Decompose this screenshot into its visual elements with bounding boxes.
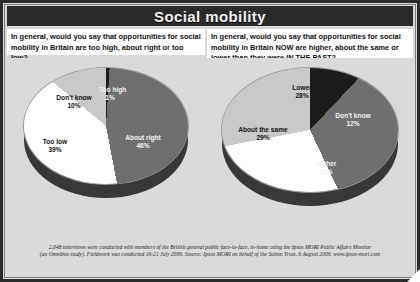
pie-right-face bbox=[222, 68, 398, 192]
title-bar: Social mobility bbox=[7, 6, 413, 26]
pie-chart-left: Too high 1% About right 46% Too low 39% … bbox=[7, 58, 205, 240]
poster-root: Social mobility In general, would you sa… bbox=[0, 0, 420, 282]
pie-chart-right: Don't know 12% Higher 31% About the same… bbox=[207, 58, 413, 240]
page-title: Social mobility bbox=[154, 8, 266, 25]
pie-left-face bbox=[24, 68, 188, 184]
footnote-line-2: (an Omnibus study). Fieldwork was conduc… bbox=[8, 251, 412, 258]
corner-fold bbox=[407, 269, 420, 282]
question-text-left: In general, would you say that opportuni… bbox=[7, 29, 205, 55]
footnote: 2,048 interviews were conducted with mem… bbox=[8, 244, 412, 259]
pie-left-wrap: Too high 1% About right 46% Too low 39% … bbox=[24, 68, 188, 192]
footnote-line-1: 2,048 interviews were conducted with mem… bbox=[8, 244, 412, 251]
pie-right-wrap: Don't know 12% Higher 31% About the same… bbox=[222, 68, 398, 200]
